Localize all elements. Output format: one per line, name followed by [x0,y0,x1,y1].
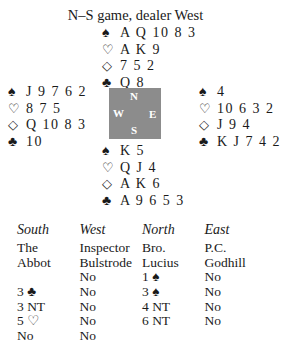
player-north: Lucius [142,256,205,271]
bid-north: 3 ♠ [142,285,205,300]
compass-box: N W E S [109,88,161,139]
club-icon: ♣ [199,134,217,151]
spade-icon: ♠ [199,84,217,101]
east-clubs: K J 7 4 2 [217,134,281,149]
north-diamonds: 7 5 2 [120,58,156,73]
bid-north: 1 ♠ [142,270,205,285]
player-names-row: Abbot Bulstrode Lucius Godhill [17,256,267,271]
bid-south: 5 ♡ [17,314,80,329]
player-east: P.C. [205,241,268,256]
west-clubs: 10 [26,134,43,149]
east-hearts: 10 6 3 2 [217,101,275,116]
east-diamonds: J 9 4 [217,117,251,132]
diamond-icon: ◇ [8,117,26,134]
header-south: South [17,220,80,239]
bid-south: 3 NT [17,300,80,315]
bid-east: No [205,285,268,300]
bid-south [17,270,80,285]
bid-west: No [80,285,143,300]
header-west: West [80,220,143,239]
bid-north: 6 NT [142,314,205,329]
bid-south: No [17,329,80,344]
east-hand: ♠4 ♡10 6 3 2 ◇J 9 4 ♣K J 7 4 2 [199,84,281,150]
heart-icon: ♡ [8,101,26,118]
bid-west: No [80,270,143,285]
diamond-icon: ◇ [102,58,120,75]
player-east: Godhill [205,256,268,271]
compass-south: S [131,124,137,136]
bid-row: 5 ♡ No 6 NT No [17,314,267,329]
auction-table: South West North East The Inspector Bro.… [17,220,267,344]
bid-west: No [80,314,143,329]
bid-west: No [80,329,143,344]
north-spades: A Q 10 8 3 [120,25,196,40]
east-spades: 4 [217,84,226,99]
compass-east: E [149,108,156,120]
south-spades: K 5 [120,143,145,158]
heart-icon: ♡ [102,42,120,59]
west-diamonds: Q 10 8 3 [26,117,87,132]
west-hearts: 8 7 5 [26,101,62,116]
bid-east: No [205,314,268,329]
bid-west: No [80,300,143,315]
spade-icon: ♠ [102,25,120,42]
bid-row: No 1 ♠ No [17,270,267,285]
bid-east [205,329,268,344]
diamond-icon: ◇ [199,117,217,134]
player-south: Abbot [17,256,80,271]
south-clubs: A 9 6 5 3 [120,193,185,208]
club-icon: ♣ [102,193,120,210]
north-hand: ♠A Q 10 8 3 ♡A K 9 ◇7 5 2 ♣Q 8 [102,25,196,91]
bid-row: 3 ♣ No 3 ♠ No [17,285,267,300]
bid-row: 3 NT No 4 NT No [17,300,267,315]
bid-east: No [205,270,268,285]
north-hearts: A K 9 [120,42,161,57]
bid-north: 4 NT [142,300,205,315]
south-diamonds: A K 6 [120,176,161,191]
spade-icon: ♠ [102,143,120,160]
player-west: Inspector [80,241,143,256]
header-north: North [142,220,205,239]
player-west: Bulstrode [80,256,143,271]
player-names-row: The Inspector Bro. P.C. [17,241,267,256]
south-hearts: Q J 4 [120,160,157,175]
compass-west: W [113,107,124,119]
bid-south: 3 ♣ [17,285,80,300]
player-north: Bro. [142,241,205,256]
club-icon: ♣ [8,134,26,151]
diamond-icon: ◇ [102,176,120,193]
auction-header: South West North East [17,220,267,239]
bid-east: No [205,300,268,315]
player-south: The [17,241,80,256]
spade-icon: ♠ [8,84,26,101]
south-hand: ♠K 5 ♡Q J 4 ◇A K 6 ♣A 9 6 5 3 [102,143,185,209]
west-spades: J 9 7 6 2 [26,84,87,99]
deal-title: N–S game, dealer West [0,7,271,24]
heart-icon: ♡ [102,160,120,177]
bid-row: No No [17,329,267,344]
heart-icon: ♡ [199,101,217,118]
west-hand: ♠J 9 7 6 2 ♡8 7 5 ◇Q 10 8 3 ♣10 [8,84,87,150]
bid-north [142,329,205,344]
compass-north: N [130,90,138,102]
header-east: East [205,220,268,239]
